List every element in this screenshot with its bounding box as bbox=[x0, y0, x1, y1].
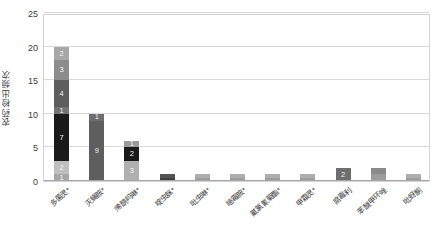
y-axis-tick-label: 0 bbox=[33, 177, 38, 187]
bar-segment[interactable]: 2 bbox=[124, 147, 139, 160]
bar-segment[interactable]: 2 bbox=[336, 168, 351, 181]
bar-segment[interactable]: 3 bbox=[54, 60, 69, 80]
bar-stack[interactable]: 321 bbox=[124, 141, 139, 181]
bar-stack[interactable]: 91 bbox=[89, 114, 104, 181]
bar-stack[interactable]: 2 bbox=[336, 168, 351, 181]
y-axis-tick-label: 20 bbox=[28, 43, 38, 53]
bar-segment[interactable]: 2 bbox=[54, 161, 69, 174]
bar-segment[interactable]: 1 bbox=[124, 141, 139, 148]
bar-segment[interactable] bbox=[371, 168, 386, 175]
bar-segment[interactable]: 4 bbox=[54, 80, 69, 107]
bar-segment[interactable]: 2 bbox=[54, 47, 69, 60]
bar-segment[interactable]: 3 bbox=[124, 161, 139, 181]
bar-segment[interactable]: 7 bbox=[54, 114, 69, 161]
bar-stack[interactable]: 1271432 bbox=[54, 47, 69, 181]
bars-layer: 1271432913212 bbox=[44, 15, 429, 181]
chart-container: 农药检出频次 0510152025 1271432913212 多菌灵*灭蝇胺*… bbox=[0, 0, 438, 232]
bar-stack[interactable] bbox=[371, 168, 386, 181]
gridline bbox=[44, 12, 429, 13]
y-axis-tick-labels: 0510152025 bbox=[14, 0, 41, 182]
x-axis-category-labels: 多菌灵*灭蝇胺*烯酰吗啉*啶虫脒*吡虫啉*嘧霉胺*氟氯氰菊酯*甲霜灵*腐霉利苯醚… bbox=[43, 184, 430, 232]
y-axis-title: 农药检出频次 bbox=[0, 38, 14, 158]
bar-segment[interactable]: 9 bbox=[89, 121, 104, 181]
plot-area: 1271432913212 bbox=[43, 14, 430, 182]
y-axis-tick-label: 15 bbox=[28, 76, 38, 86]
y-axis-tick-label: 10 bbox=[28, 110, 38, 120]
y-axis-tick-label: 25 bbox=[28, 9, 38, 19]
bar-segment[interactable]: 1 bbox=[54, 107, 69, 114]
bar-segment[interactable]: 1 bbox=[89, 114, 104, 121]
y-axis-tick-label: 5 bbox=[33, 143, 38, 153]
